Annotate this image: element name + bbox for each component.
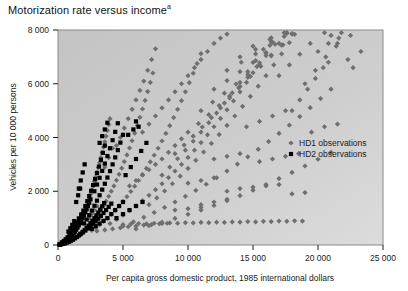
- data-point-hd2: [87, 194, 91, 198]
- data-point-hd2: [140, 200, 144, 204]
- y-axis-ticks: 02 0004 0006 0008 000: [28, 25, 58, 250]
- data-point-hd2: [62, 241, 66, 245]
- data-point-hd2: [77, 216, 81, 220]
- data-point-hd2: [93, 177, 97, 181]
- data-point-hd2: [76, 193, 80, 197]
- data-point-hd2: [98, 141, 102, 145]
- x-axis-label: Per capita gross domestic product, 1985 …: [106, 273, 334, 283]
- data-point-hd2: [121, 200, 125, 204]
- data-point-hd2: [82, 221, 86, 225]
- y-tick-label: 6 000: [28, 79, 50, 89]
- data-point-hd2: [103, 161, 107, 165]
- data-point-hd2: [79, 212, 83, 216]
- data-point-hd2: [129, 165, 133, 169]
- data-point-hd2: [134, 119, 138, 123]
- data-point-hd2: [116, 148, 120, 152]
- data-point-hd2: [105, 154, 109, 158]
- data-point-hd2: [105, 175, 109, 179]
- data-point-hd2: [134, 204, 138, 208]
- data-point-hd2: [121, 212, 125, 216]
- data-point-hd2: [97, 164, 101, 168]
- data-point-hd2: [83, 204, 87, 208]
- data-point-hd2: [102, 201, 106, 205]
- data-point-hd2: [137, 125, 141, 129]
- data-point-hd2: [95, 182, 99, 186]
- data-point-hd2: [72, 219, 76, 223]
- data-point-hd2: [98, 193, 102, 197]
- data-point-hd2: [100, 188, 104, 192]
- data-point-hd2: [100, 134, 104, 138]
- data-point-hd2: [144, 141, 148, 145]
- data-point-hd2: [105, 121, 109, 125]
- data-point-hd2: [113, 155, 117, 159]
- data-point-hd2: [114, 216, 118, 220]
- data-point-hd2: [111, 138, 115, 142]
- data-point-hd2: [70, 223, 74, 227]
- legend-item-label: HD1 observations: [299, 138, 367, 148]
- data-point-hd2: [92, 189, 96, 193]
- data-point-hd2: [134, 157, 138, 161]
- data-point-hd2: [113, 208, 117, 212]
- x-tick-label: 5 000: [112, 253, 134, 263]
- data-point-hd2: [81, 209, 85, 213]
- data-point-hd2: [108, 146, 112, 150]
- x-axis-ticks: 05 00010 00015 00020 00025 000: [56, 245, 397, 263]
- data-point-hd2: [108, 169, 112, 173]
- data-point-hd2: [98, 221, 102, 225]
- data-point-hd2: [103, 182, 107, 186]
- data-point-hd2: [101, 151, 105, 155]
- data-point-hd2: [85, 217, 89, 221]
- data-point-hd2: [117, 204, 121, 208]
- data-point-hd2: [87, 213, 91, 217]
- data-point-hd2: [105, 216, 109, 220]
- data-point-hd2: [99, 158, 103, 162]
- data-point-hd2: [95, 171, 99, 175]
- x-tick-label: 15 000: [240, 253, 266, 263]
- data-point-hd2: [103, 127, 107, 131]
- data-point-hd2: [124, 173, 128, 177]
- data-point-hd2: [126, 133, 130, 137]
- data-point-hd2: [78, 186, 82, 190]
- x-tick-label: 0: [56, 253, 61, 263]
- x-tick-label: 25 000: [370, 253, 396, 263]
- y-tick-label: 4 000: [28, 133, 50, 143]
- data-point-hd2: [98, 176, 102, 180]
- data-point-hd2: [74, 200, 78, 204]
- data-point-hd2: [92, 204, 96, 208]
- data-point-hd2: [109, 212, 113, 216]
- data-point-hd2: [113, 130, 117, 134]
- data-point-hd2: [121, 133, 125, 137]
- data-point-hd2: [83, 162, 87, 166]
- x-tick-label: 10 000: [175, 253, 201, 263]
- data-point-hd2: [111, 162, 115, 166]
- legend-marker-square-icon: [289, 152, 293, 156]
- data-point-hd2: [79, 178, 83, 182]
- x-tick-label: 20 000: [305, 253, 331, 263]
- data-point-hd2: [109, 202, 113, 206]
- data-point-hd2: [101, 219, 105, 223]
- data-point-hd2: [100, 169, 104, 173]
- data-point-hd2: [127, 208, 131, 212]
- y-tick-label: 2 000: [28, 186, 50, 196]
- y-tick-label: 8 000: [28, 25, 50, 35]
- data-point-hd2: [91, 183, 95, 187]
- chart-figure: Motorization rate versus incomea 02 0004…: [0, 0, 408, 291]
- data-point-hd2: [81, 170, 85, 174]
- data-point-hd2: [118, 141, 122, 145]
- data-point-hd2: [103, 143, 107, 147]
- y-axis-label: Vehicles per 10 000 persons: [8, 83, 18, 190]
- scatter-plot: 02 0004 0006 0008 000 05 00010 00015 000…: [0, 0, 408, 291]
- y-tick-label: 0: [44, 240, 49, 250]
- data-point-hd2: [139, 149, 143, 153]
- legend-item-label: HD2 observations: [299, 149, 367, 159]
- data-point-hd2: [85, 199, 89, 203]
- data-point-hd2: [95, 199, 99, 203]
- data-point-hd2: [90, 209, 94, 213]
- data-point-hd2: [116, 121, 120, 125]
- data-point-hd2: [131, 127, 135, 131]
- chart-legend: HD1 observationsHD2 observations: [288, 138, 366, 159]
